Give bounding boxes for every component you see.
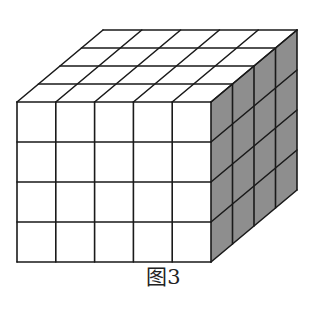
figure-caption: 图3	[0, 262, 327, 292]
figure-3: 图3	[0, 0, 327, 310]
